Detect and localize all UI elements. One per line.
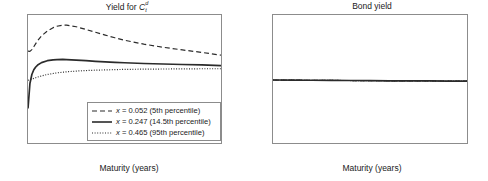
legend-item-1: x = 0.247 (14.5th percentile) xyxy=(91,116,217,127)
x-axis-label-left: Maturity (years) xyxy=(0,163,244,173)
legend-left: x = 0.052 (5th percentile) x = 0.247 (14… xyxy=(87,102,221,141)
figure-container: Yield for Cdt 00.020.040.060.080.1010203… xyxy=(0,0,488,181)
legend-eq-1: = 0.247 (14.5th percentile) xyxy=(120,117,211,126)
legend-eq-0: = 0.052 (5th percentile) xyxy=(120,106,200,115)
legend-eq-2: = 0.465 (95th percentile) xyxy=(120,128,205,137)
legend-swatch-dashed-icon xyxy=(91,106,113,116)
panel-bond-yield: Bond yield 00.020.040.060.080.1010203040… xyxy=(244,0,488,181)
panel-title-indices: dt xyxy=(145,1,152,10)
x-axis-label-right: Maturity (years) xyxy=(244,163,488,173)
legend-swatch-solid-icon xyxy=(91,117,113,127)
page-title-left: Yield for Cdt xyxy=(0,1,244,13)
legend-label-2: x = 0.465 (95th percentile) xyxy=(116,128,204,138)
legend-label-1: x = 0.247 (14.5th percentile) xyxy=(116,117,211,127)
legend-swatch-dotted-icon xyxy=(91,128,113,138)
legend-item-0: x = 0.052 (5th percentile) xyxy=(91,105,217,116)
panel-yield-for-c: Yield for Cdt 00.020.040.060.080.1010203… xyxy=(0,0,244,181)
legend-label-0: x = 0.052 (5th percentile) xyxy=(116,106,200,116)
legend-item-2: x = 0.465 (95th percentile) xyxy=(91,127,217,138)
page-title-right: Bond yield xyxy=(244,1,488,12)
tick-layer-right: 00.020.040.060.080.101020304050607080901… xyxy=(272,14,468,144)
panel-title-prefix: Yield for xyxy=(106,2,139,12)
